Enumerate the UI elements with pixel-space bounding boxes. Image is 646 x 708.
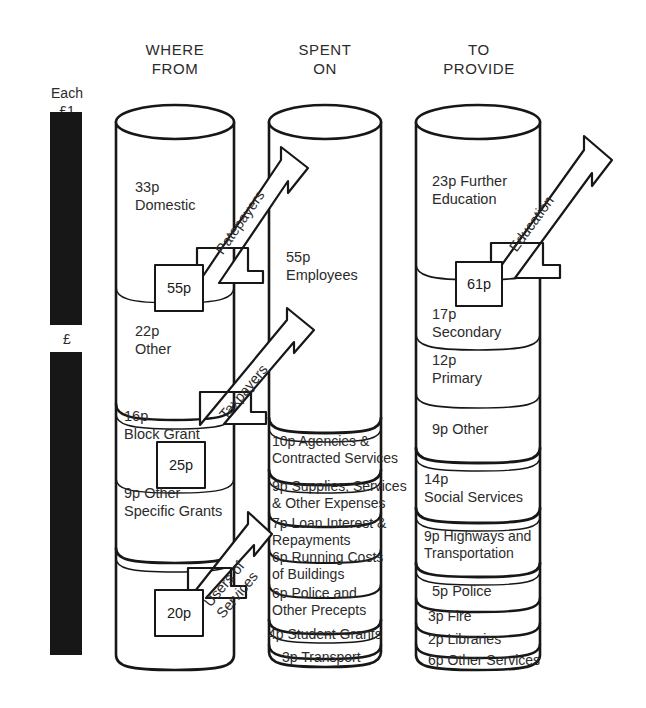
segment-agencies: 10p Agencies & Contracted Services xyxy=(272,433,417,467)
badge-55p: 55p xyxy=(155,265,203,311)
segment-primary: 12p Primary xyxy=(432,351,542,387)
segment-secondary: 17p Secondary xyxy=(432,305,547,341)
badge-61p: 61p xyxy=(456,262,502,306)
badge-25p: 25p xyxy=(157,442,205,488)
segment-police-precepts: 6p Police and Other Precepts xyxy=(272,585,407,619)
segment-social-services: 14p Social Services xyxy=(424,470,549,506)
segment-employees: 55p Employees xyxy=(286,248,396,284)
segment-domestic: 33p Domestic xyxy=(135,178,235,214)
segment-student-grants: 4p Student Grants xyxy=(268,626,418,643)
header-to-provide: TO PROVIDE xyxy=(420,40,538,78)
segment-running-costs: 6p Running Costs of Buildings xyxy=(272,549,412,583)
header-where-from: WHERE FROM xyxy=(120,40,230,78)
segment-other-rates: 22p Other xyxy=(135,322,235,358)
segment-highways: 9p Highways and Transportation xyxy=(424,528,559,562)
segment-other-services: 6p Other Services xyxy=(428,652,568,669)
pound-diagram: WHERE FROM SPENT ON TO PROVIDE Each £1 £… xyxy=(0,0,646,708)
scale-bar-bottom xyxy=(50,352,82,655)
scale-label-pound: £ xyxy=(36,330,98,348)
segment-libraries: 2p Libraries xyxy=(428,631,543,648)
header-spent-on: SPENT ON xyxy=(272,40,378,78)
scale-bar-top xyxy=(50,112,82,325)
segment-fire: 3p Fire xyxy=(428,608,538,625)
segment-transport: 3p Transport xyxy=(282,649,412,666)
segment-loan-interest: 7p Loan Interest & Repayments xyxy=(272,515,417,549)
segment-police: 5p Police xyxy=(432,582,542,600)
segment-other-education: 9p Other xyxy=(432,420,542,438)
segment-supplies: 9p Supplies, Services & Other Expenses xyxy=(272,478,422,512)
segment-other-specific-grants: 9p Other Specific Grants xyxy=(124,484,249,520)
badge-20p: 20p xyxy=(155,590,203,636)
